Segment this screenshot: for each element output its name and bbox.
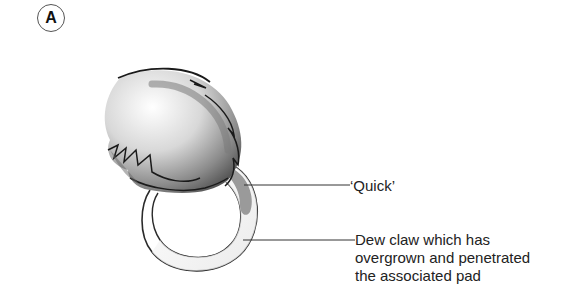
- label-dew-claw-line1: Dew claw which has: [355, 231, 530, 249]
- label-dew-claw-line2: overgrown and penetrated: [355, 249, 530, 267]
- label-dew-claw-line3: the associated pad: [355, 267, 530, 285]
- label-dew-claw: Dew claw which has overgrown and penetra…: [355, 231, 530, 285]
- label-quick: ‘Quick’: [350, 177, 395, 195]
- pad-shape: [105, 69, 242, 193]
